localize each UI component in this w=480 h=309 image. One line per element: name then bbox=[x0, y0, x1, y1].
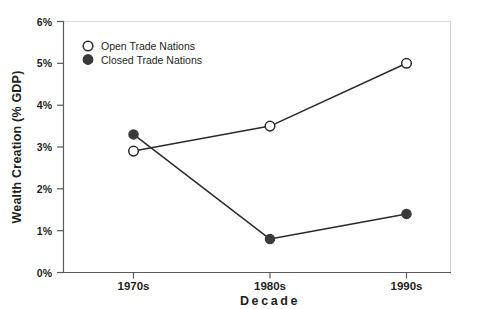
data-point-open-1990s[interactable] bbox=[402, 59, 412, 69]
legend-label-closed-trade-nations: Closed Trade Nations bbox=[101, 54, 202, 66]
y-tick-label-0: 0% bbox=[37, 267, 53, 279]
data-point-closed-1990s[interactable] bbox=[402, 209, 411, 218]
data-point-open-1970s[interactable] bbox=[129, 146, 139, 156]
legend-marker-open-circle-icon bbox=[83, 41, 93, 51]
x-tick-label-1990s: 1990s bbox=[391, 280, 423, 292]
y-tick-label-3: 3% bbox=[37, 141, 53, 153]
legend-marker-filled-circle-icon bbox=[83, 55, 93, 65]
line-chart: 6% 5% 4% 3% 2% 1% 0% 1970s 1980s 1990s W… bbox=[0, 0, 480, 309]
x-axis-title: Decade bbox=[240, 294, 300, 308]
data-point-open-1980s[interactable] bbox=[265, 121, 275, 131]
legend-item-open-trade-nations[interactable]: Open Trade Nations bbox=[83, 40, 195, 52]
y-tick-label-2: 2% bbox=[37, 183, 53, 195]
y-tick-label-5: 5% bbox=[37, 57, 53, 69]
y-tick-label-1: 1% bbox=[37, 225, 53, 237]
series-line-open-trade-nations bbox=[134, 63, 407, 151]
data-point-closed-1980s[interactable] bbox=[265, 235, 274, 244]
x-tick-label-1980s: 1980s bbox=[254, 280, 286, 292]
legend-item-closed-trade-nations[interactable]: Closed Trade Nations bbox=[83, 54, 202, 66]
y-axis-title: Wealth Creation (% GDP) bbox=[10, 71, 24, 224]
y-tick-label-4: 4% bbox=[37, 99, 53, 111]
series-line-closed-trade-nations bbox=[134, 134, 407, 239]
legend-label-open-trade-nations: Open Trade Nations bbox=[101, 40, 195, 52]
x-tick-label-1970s: 1970s bbox=[118, 280, 150, 292]
data-point-closed-1970s[interactable] bbox=[129, 130, 138, 139]
y-tick-label-6: 6% bbox=[37, 16, 53, 28]
chart-container: 6% 5% 4% 3% 2% 1% 0% 1970s 1980s 1990s W… bbox=[0, 0, 480, 309]
chart-legend: Open Trade Nations Closed Trade Nations bbox=[83, 40, 202, 66]
